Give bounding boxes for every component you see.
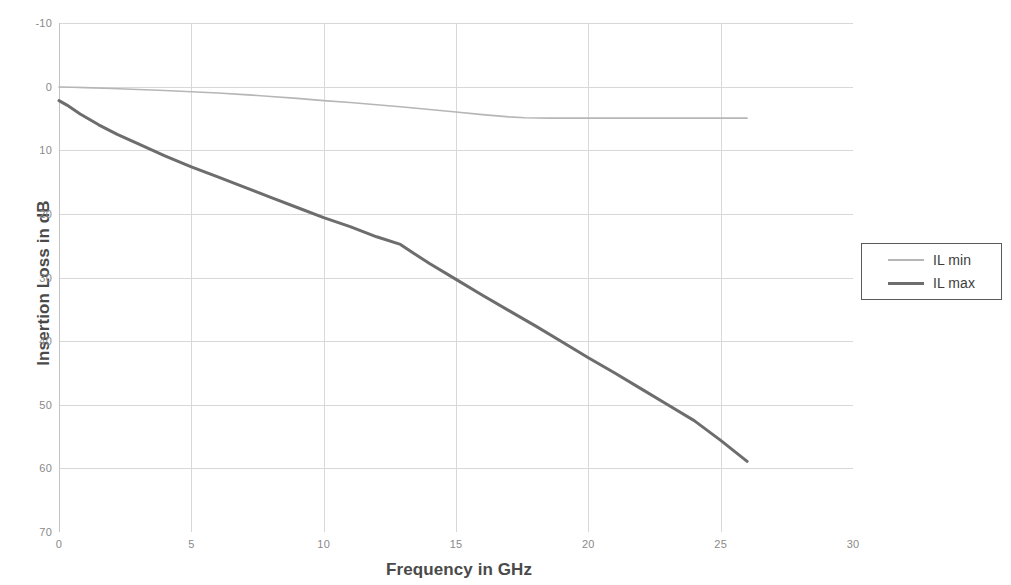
plot-area xyxy=(59,23,853,532)
x-axis-title: Frequency in GHz xyxy=(259,560,659,580)
legend: IL min IL max xyxy=(861,243,1002,300)
legend-item-il-max: IL max xyxy=(862,271,1003,295)
legend-item-il-min: IL min xyxy=(862,248,1003,272)
y-tick-label: 40 xyxy=(6,336,52,347)
series-line-il-min xyxy=(59,87,747,118)
x-tick-label: 10 xyxy=(304,538,344,550)
x-tick-label: 15 xyxy=(436,538,476,550)
y-tick-label: 20 xyxy=(6,209,52,220)
legend-label-il-min: IL min xyxy=(933,252,971,268)
x-axis-tick-labels: 051015202530 xyxy=(59,538,853,558)
y-tick-label: 0 xyxy=(6,82,52,93)
y-tick-label: 30 xyxy=(6,273,52,284)
x-tick-label: 20 xyxy=(568,538,608,550)
legend-label-il-max: IL max xyxy=(933,275,975,291)
series-line-il-max xyxy=(59,101,747,462)
y-tick-label: -10 xyxy=(6,18,52,29)
y-tick-label: 10 xyxy=(6,145,52,156)
legend-swatch-il-min xyxy=(888,259,924,261)
y-tick-label: 60 xyxy=(6,463,52,474)
x-tick-label: 30 xyxy=(833,538,873,550)
x-tick-label: 25 xyxy=(701,538,741,550)
x-tick-label: 5 xyxy=(171,538,211,550)
y-tick-label: 50 xyxy=(6,400,52,411)
legend-swatch-il-max xyxy=(888,282,924,285)
y-tick-label: 70 xyxy=(6,527,52,538)
y-axis-tick-labels: -10010203040506070 xyxy=(0,23,52,532)
insertion-loss-chart: Insertion Loss in dB -10010203040506070 … xyxy=(0,0,1011,585)
data-series-layer xyxy=(59,23,853,532)
x-tick-label: 0 xyxy=(39,538,79,550)
